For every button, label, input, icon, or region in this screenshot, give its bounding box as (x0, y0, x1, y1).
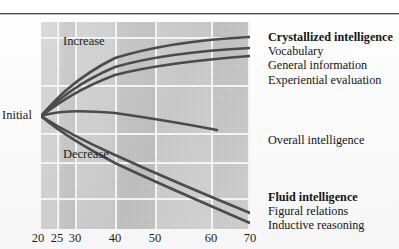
legend-item-figural-relations: Figural relations (268, 204, 364, 218)
legend-item-vocabulary: Vocabulary (268, 44, 393, 58)
x-tick-60: 60 (205, 231, 218, 246)
plot-area (41, 22, 250, 229)
x-tick-50: 50 (149, 231, 162, 246)
curve-figural-relations (41, 116, 250, 213)
legend-heading-overall: Overall intelligence (268, 133, 364, 147)
x-tick-25: 25 (51, 231, 64, 246)
x-tick-40: 40 (109, 231, 122, 246)
legend-heading-crystallized: Crystallized intelligence (268, 30, 393, 44)
label-increase: Increase (63, 34, 105, 49)
curve-overall-intelligence (41, 111, 217, 130)
x-axis-tick-labels: 20253040506070 (0, 231, 399, 249)
legend-crystallized-intelligence: Crystallized intelligence Vocabulary Gen… (268, 30, 393, 87)
top-divider-shadow (0, 14, 399, 15)
legend-heading-fluid: Fluid intelligence (268, 190, 364, 204)
legend-item-general-information: General information (268, 58, 393, 72)
label-initial: Initial (2, 108, 32, 123)
legend-overall-intelligence: Overall intelligence (268, 133, 364, 147)
figure-intelligence-across-age: Initial Increase Decrease Crystallized i… (0, 0, 399, 249)
legend-fluid-intelligence: Fluid intelligence Figural relations Ind… (268, 190, 364, 233)
x-tick-20: 20 (32, 231, 45, 246)
curve-group (41, 22, 250, 229)
x-tick-30: 30 (69, 231, 82, 246)
x-tick-70: 70 (244, 231, 257, 246)
legend-item-experiential-evaluation: Experiential evaluation (268, 73, 393, 87)
label-decrease: Decrease (63, 147, 109, 162)
